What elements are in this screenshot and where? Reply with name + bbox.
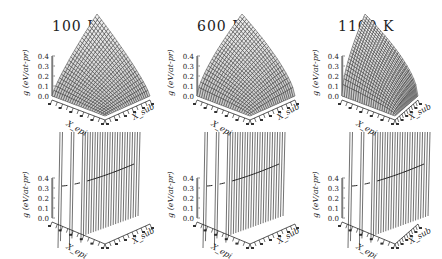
z-tick-label: 0.2 bbox=[183, 73, 194, 81]
z-tick-label: 0.4 bbox=[183, 175, 195, 183]
z-tick-label: 0.1 bbox=[38, 205, 49, 213]
slice-lines bbox=[203, 132, 285, 248]
x-epi-axis-label: X_epi bbox=[64, 241, 89, 259]
z-axis: 0.00.10.20.30.4g (eV/at-pr) bbox=[166, 49, 200, 100]
z-tick-label: 0.2 bbox=[38, 73, 49, 81]
z-tick-label: 0.0 bbox=[328, 215, 339, 223]
z-axis: 0.00.10.20.30.4g (eV/at-pr) bbox=[21, 49, 55, 100]
slice-lines bbox=[348, 132, 430, 248]
z-tick-label: 0.0 bbox=[38, 93, 49, 101]
z-axis: 0.00.10.20.30.4g (eV/at-pr) bbox=[311, 171, 345, 222]
z-tick-label: 0.0 bbox=[183, 215, 194, 223]
z-tick-label: 0.3 bbox=[328, 185, 339, 193]
z-tick-label: 0.4 bbox=[328, 53, 340, 61]
z-tick-label: 0.4 bbox=[38, 53, 50, 61]
z-axis-label: g (eV/at-pr) bbox=[21, 171, 30, 218]
z-axis-label: g (eV/at-pr) bbox=[21, 49, 30, 96]
slice-plot-600k: 0.00.10.20.30.4g (eV/at-pr)X_epiX_sub bbox=[145, 128, 292, 257]
surface-plot-1100k: 1100 K0.00.10.20.30.4g (eV/at-pr)X_epiX_… bbox=[290, 0, 437, 129]
z-tick-label: 0.1 bbox=[38, 83, 49, 91]
z-axis: 0.00.10.20.30.4g (eV/at-pr) bbox=[166, 171, 200, 222]
z-tick-label: 0.1 bbox=[328, 205, 339, 213]
z-axis-label: g (eV/at-pr) bbox=[311, 49, 320, 96]
base-axes: X_epiX_sub bbox=[193, 222, 301, 259]
z-tick-label: 0.1 bbox=[183, 83, 194, 91]
slice-plot-100k: 0.00.10.20.30.4g (eV/at-pr)X_epiX_sub bbox=[0, 128, 147, 257]
z-axis-label: g (eV/at-pr) bbox=[166, 49, 175, 96]
z-tick-label: 0.0 bbox=[328, 93, 339, 101]
surface-plot-100k: 100 K0.00.10.20.30.4g (eV/at-pr)X_epiX_s… bbox=[0, 0, 147, 129]
z-tick-label: 0.2 bbox=[183, 195, 194, 203]
z-tick-label: 0.2 bbox=[38, 195, 49, 203]
z-tick-label: 0.1 bbox=[328, 83, 339, 91]
z-tick-label: 0.4 bbox=[183, 53, 195, 61]
z-tick-label: 0.3 bbox=[183, 63, 194, 71]
surface-mesh bbox=[52, 14, 150, 116]
z-axis-label: g (eV/at-pr) bbox=[166, 171, 175, 218]
z-tick-label: 0.1 bbox=[183, 205, 194, 213]
slice-lines bbox=[58, 132, 140, 248]
z-tick-label: 0.2 bbox=[328, 195, 339, 203]
z-tick-label: 0.2 bbox=[328, 73, 339, 81]
surface-plot-600k: 600 K0.00.10.20.30.4g (eV/at-pr)X_epiX_s… bbox=[145, 0, 292, 129]
z-axis: 0.00.10.20.30.4g (eV/at-pr) bbox=[21, 171, 55, 222]
z-tick-label: 0.3 bbox=[183, 185, 194, 193]
slice-plot-1100k: 0.00.10.20.30.4g (eV/at-pr)X_epiX_sub bbox=[290, 128, 437, 257]
base-axes: X_epiX_sub bbox=[338, 222, 433, 259]
z-tick-label: 0.3 bbox=[38, 185, 49, 193]
z-tick-label: 0.4 bbox=[38, 175, 50, 183]
z-tick-label: 0.4 bbox=[328, 175, 340, 183]
z-tick-label: 0.0 bbox=[38, 215, 49, 223]
z-tick-label: 0.3 bbox=[38, 63, 49, 71]
z-axis-label: g (eV/at-pr) bbox=[311, 171, 320, 218]
x-epi-axis-label: X_epi bbox=[354, 241, 379, 259]
base-axes: X_epiX_sub bbox=[48, 222, 156, 259]
z-axis: 0.00.10.20.30.4g (eV/at-pr) bbox=[311, 49, 345, 100]
surface-mesh bbox=[342, 14, 418, 116]
x-epi-axis-label: X_epi bbox=[209, 241, 234, 259]
z-tick-label: 0.3 bbox=[328, 63, 339, 71]
surface-mesh bbox=[197, 14, 295, 116]
z-tick-label: 0.0 bbox=[183, 93, 194, 101]
